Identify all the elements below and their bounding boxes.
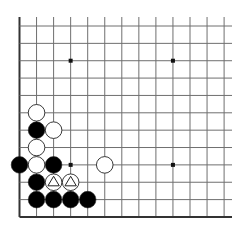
white-stone: [28, 139, 45, 156]
star-point: [69, 163, 73, 167]
black-stone: [62, 191, 79, 208]
stones-layer: [11, 105, 113, 208]
black-stone: [45, 191, 62, 208]
white-stone: [45, 122, 62, 139]
black-stone: [11, 157, 28, 174]
black-stone: [45, 157, 62, 174]
white-stone: [28, 105, 45, 122]
white-stone: [28, 157, 45, 174]
star-point: [171, 163, 175, 167]
star-point: [69, 59, 73, 63]
black-stone: [28, 191, 45, 208]
black-stone: [28, 174, 45, 191]
white-stone: [96, 157, 113, 174]
black-stone: [79, 191, 96, 208]
star-point: [171, 59, 175, 63]
black-stone: [28, 122, 45, 139]
go-board[interactable]: [0, 0, 250, 230]
